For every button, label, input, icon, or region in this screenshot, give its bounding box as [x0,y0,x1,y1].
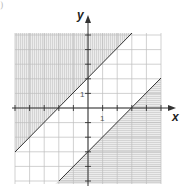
x-tick-label: 1 [100,114,105,123]
inequality-graph: y x 1 1 [0,0,187,189]
y-tick-label: 1 [80,90,85,99]
y-axis-arrow-icon [85,15,91,23]
x-axis-label: x [171,110,180,124]
y-axis-label: y [76,8,85,22]
